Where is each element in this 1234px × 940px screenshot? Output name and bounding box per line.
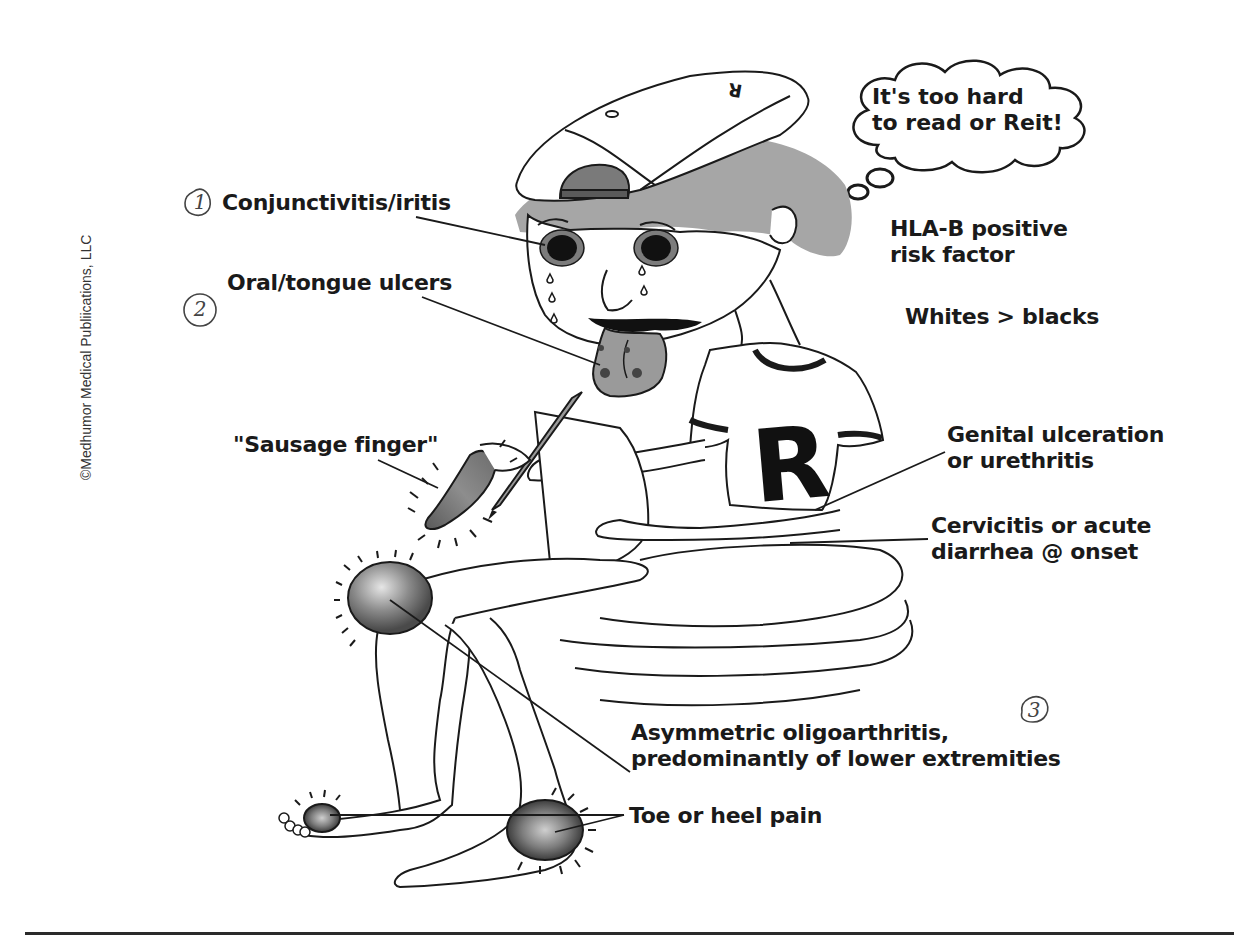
label-genital-line1: Genital ulceration [947,422,1164,448]
toe-pain-rays [295,790,340,805]
demographic-note: Whites > blacks [905,304,1099,330]
tongue [593,328,666,396]
paper [535,412,648,569]
inflamed-knee [348,562,432,634]
handwritten-mark-2: 2 [190,297,210,321]
hla-note-line2: risk factor [890,242,1014,268]
handwritten-mark-3: 3 [1024,698,1044,722]
hla-note-line1: HLA-B positive [890,216,1068,242]
bottom-divider [25,932,1234,935]
inflamed-heel [507,800,583,860]
inflamed-toe [304,804,340,832]
reactive-arthritis-illustration: R [0,0,1234,940]
ear [770,207,796,243]
label-conjunctivitis: Conjunctivitis/iritis [222,190,451,216]
thought-bubble-line1: It's too hard [872,84,1024,110]
label-cervicitis-line2: diarrhea @ onset [931,539,1138,565]
copyright-text: ©Medhumor Medical Publiications, LLC [78,235,94,480]
label-cervicitis-line1: Cervicitis or acute [931,513,1151,539]
label-arthritis-line1: Asymmetric oligoarthritis, [631,720,949,746]
label-sausage-finger: "Sausage finger" [233,432,438,458]
handwritten-mark-1: 1 [190,190,210,214]
thought-bubble-line2: to read or Reit! [872,110,1063,136]
label-toe-heel: Toe or heel pain [629,803,822,829]
label-arthritis-line2: predominantly of lower extremities [631,746,1061,772]
label-oral-ulcers: Oral/tongue ulcers [227,270,452,296]
label-genital-line2: or urethritis [947,448,1094,474]
